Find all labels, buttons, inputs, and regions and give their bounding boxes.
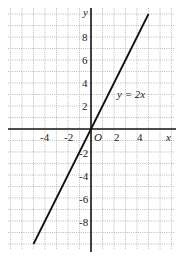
y-tick-label: 6 (82, 54, 88, 66)
y-tick-label: -6 (79, 193, 89, 205)
x-axis-label: x (165, 131, 171, 143)
y-tick-label: 4 (82, 77, 88, 89)
y-axis-label: y (82, 6, 88, 18)
y-tick-label: 2 (82, 100, 88, 112)
y-tick-label: -8 (79, 216, 89, 228)
equation-label: y = 2x (116, 88, 145, 100)
y-tick-label: -4 (79, 170, 89, 182)
x-tick-label: 4 (137, 131, 143, 143)
origin-label: O (94, 131, 102, 143)
x-tick-label: -2 (64, 131, 73, 143)
x-tick-label: 2 (114, 131, 120, 143)
y-tick-label: -2 (79, 147, 88, 159)
y-tick-label: 8 (82, 31, 88, 43)
x-tick-label: -4 (40, 131, 50, 143)
coordinate-plane: y x O -4 -2 2 4 8 6 4 2 -2 -4 -6 -8 y = … (0, 0, 188, 261)
